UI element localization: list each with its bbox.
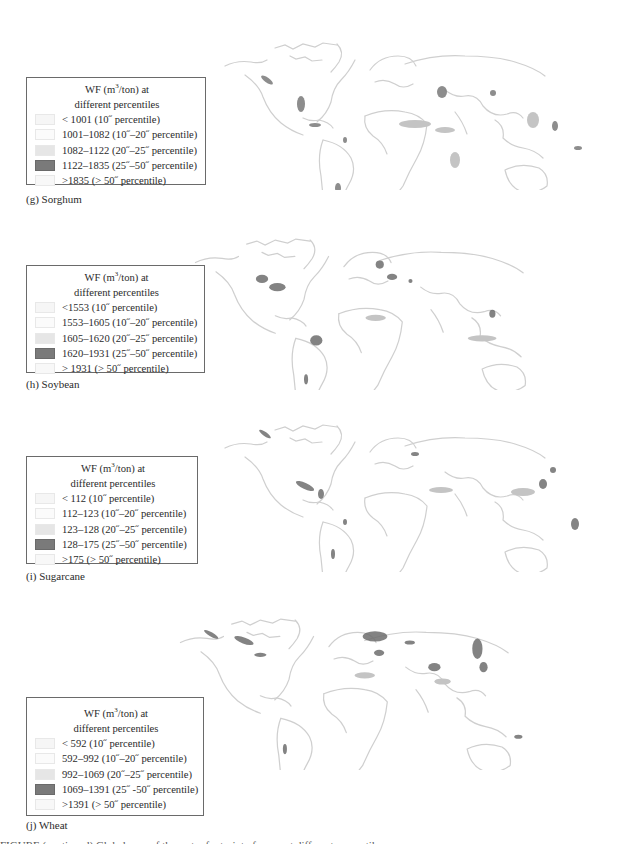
legend-item: <1553 (10˝ percentile) (35, 300, 198, 315)
panel-soybean: WF (m3/ton) at different percentiles <15… (0, 215, 625, 430)
swatch-25-50th (35, 348, 55, 359)
swatch-25-50th (35, 160, 55, 171)
world-map-soybean (175, 215, 605, 390)
legend-item: 1620–1931 (25˝–50˝ percentile) (35, 346, 198, 361)
swatch-50th (35, 175, 55, 186)
swatch-10-20th (35, 129, 55, 140)
legend-item: < 112 (10˝ percentile) (35, 491, 191, 506)
legend-item: >1391 (> 50˝ percentile) (35, 797, 197, 812)
legend-subtitle: different percentiles (35, 476, 191, 491)
legend-item: >1835 (> 50˝ percentile) (35, 173, 199, 188)
world-map-sugarcane (205, 402, 625, 572)
legend-item: 112–123 (10˝–20˝ percentile) (35, 506, 191, 521)
swatch-50th (35, 799, 55, 810)
world-map-sorghum (205, 20, 625, 190)
legend-soybean: WF (m3/ton) at different percentiles <15… (26, 265, 205, 373)
caption-wheat: (j) Wheat (26, 819, 68, 831)
figure-caption-cutoff: FIGURE (continued) Global map of the wat… (0, 838, 625, 844)
world-map-wheat (160, 595, 590, 770)
legend-item: 1553–1605 (10˝–20˝ percentile) (35, 315, 198, 330)
world-map-graphic (205, 402, 625, 572)
legend-item: 1069–1391 (25˝ -50˝ percentile) (35, 782, 197, 797)
world-map-graphic (175, 215, 605, 390)
swatch-50th (35, 363, 55, 374)
world-map-graphic (160, 595, 590, 770)
caption-sorghum: (g) Sorghum (26, 193, 82, 205)
world-map-graphic (205, 20, 625, 190)
swatch-10-20th (35, 508, 55, 519)
swatch-20-25th (35, 524, 55, 535)
legend-wheat: WF (m3/ton) at different percentiles < 5… (26, 697, 204, 816)
swatch-10-20th (35, 753, 55, 764)
legend-item: >175 (> 50˝ percentile) (35, 552, 191, 567)
swatch-25-50th (35, 784, 55, 795)
legend-item: 592–992 (10˝–20˝ percentile) (35, 751, 197, 766)
swatch-20-25th (35, 333, 55, 344)
swatch-20-25th (35, 769, 55, 780)
legend-sorghum: WF (m3/ton) at different percentiles < 1… (26, 77, 206, 185)
legend-subtitle: different percentiles (35, 97, 199, 112)
legend-item: 1001–1082 (10˝–20˝ percentile) (35, 127, 199, 142)
legend-item: 992–1069 (20˝–25˝ percentile) (35, 767, 197, 782)
legend-item: 123–128 (20˝–25˝ percentile) (35, 522, 191, 537)
swatch-10th (35, 302, 55, 313)
swatch-10th (35, 493, 55, 504)
panel-sugarcane: WF (m3/ton) at different percentiles < 1… (0, 402, 625, 617)
legend-item: < 592 (10˝ percentile) (35, 736, 197, 751)
legend-title: WF (m3/ton) at (35, 82, 199, 97)
panel-wheat: WF (m3/ton) at different percentiles < 5… (0, 595, 625, 835)
panel-sorghum: WF (m3/ton) at different percentiles < 1… (0, 0, 625, 220)
legend-item: 1605–1620 (20˝–25˝ percentile) (35, 331, 198, 346)
legend-title: WF (m3/ton) at (35, 270, 198, 285)
caption-sugarcane: (i) Sugarcane (26, 570, 85, 582)
swatch-10-20th (35, 317, 55, 328)
legend-item: 1082–1122 (20˝–25˝ percentile) (35, 143, 199, 158)
swatch-20-25th (35, 145, 55, 156)
swatch-10th (35, 738, 55, 749)
legend-subtitle: different percentiles (35, 721, 197, 736)
swatch-50th (35, 554, 55, 565)
legend-item: < 1001 (10˝ percentile) (35, 112, 199, 127)
legend-item: > 1931 (> 50˝ percentile) (35, 361, 198, 376)
legend-item: 1122–1835 (25˝–50˝ percentile) (35, 158, 199, 173)
swatch-10th (35, 114, 55, 125)
legend-title: WF (m3/ton) at (35, 706, 197, 721)
caption-soybean: (h) Soybean (26, 378, 79, 390)
legend-title: WF (m3/ton) at (35, 461, 191, 476)
swatch-25-50th (35, 539, 55, 550)
legend-sugarcane: WF (m3/ton) at different percentiles < 1… (26, 456, 198, 564)
legend-subtitle: different percentiles (35, 285, 198, 300)
legend-item: 128–175 (25˝–50˝ percentile) (35, 537, 191, 552)
